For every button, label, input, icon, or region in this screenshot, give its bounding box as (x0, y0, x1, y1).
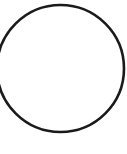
figure-canvas (0, 0, 127, 154)
circle-figure-svg (0, 0, 127, 154)
